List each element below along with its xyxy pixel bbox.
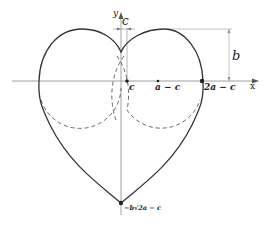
- c-arrow-right-icon: [117, 28, 121, 31]
- heart-diagram: [0, 0, 271, 229]
- point-a-minus-c-label: a − c: [155, 83, 180, 92]
- left-dashed-circle: [41, 88, 121, 128]
- right-dashed-circle: [117, 56, 200, 128]
- b-dimension-label: b: [232, 49, 240, 62]
- center-dashed-arc-left: [112, 56, 124, 120]
- y-axis-label: y: [113, 9, 118, 18]
- b-arrow-down-icon: [227, 77, 230, 81]
- point-2a-minus-c-label: 2a − c: [204, 83, 235, 92]
- b-arrow-up-icon: [227, 29, 230, 33]
- c-dimension-label: c: [122, 15, 129, 27]
- point-bottom-label: −b√2a − c: [124, 205, 161, 212]
- point-c-label: c: [129, 83, 134, 92]
- point-bottom: [119, 201, 123, 205]
- x-axis-label: x: [250, 82, 255, 91]
